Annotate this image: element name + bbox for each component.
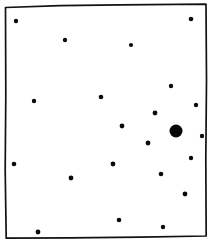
scatter-point xyxy=(183,192,188,197)
scatter-point xyxy=(153,111,158,116)
figure-container: Scatter field of points inside hand-draw… xyxy=(0,0,212,246)
scatter-point xyxy=(111,162,116,167)
scatter-point xyxy=(189,17,194,22)
scatter-point xyxy=(99,95,104,100)
scatter-point xyxy=(32,99,36,103)
scatter-point xyxy=(120,124,125,129)
scatter-point-large xyxy=(170,125,183,138)
scatter-point xyxy=(146,141,151,146)
scatter-point xyxy=(36,230,41,235)
scatter-point xyxy=(63,38,67,42)
scatter-point xyxy=(200,134,204,138)
scatter-point xyxy=(194,103,198,107)
scatter-point xyxy=(129,43,133,47)
scatter-point xyxy=(117,218,122,223)
scatter-point xyxy=(159,172,164,177)
plot-background xyxy=(0,0,212,246)
scatter-point xyxy=(14,19,18,23)
scatter-point xyxy=(69,176,74,181)
scatter-point xyxy=(161,225,165,229)
scatter-point xyxy=(12,162,17,167)
scatter-point xyxy=(169,84,173,88)
scatter-plot-canvas xyxy=(0,0,212,246)
scatter-point xyxy=(189,156,193,160)
